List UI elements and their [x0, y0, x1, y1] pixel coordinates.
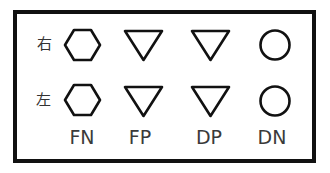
down-triangle-icon [125, 31, 162, 60]
column-label-fp: FP [120, 128, 160, 147]
row-left-symbols [65, 85, 290, 116]
column-label-dn: DN [252, 128, 292, 147]
column-label-dp: DP [189, 128, 229, 147]
row-label-left: 左 [36, 93, 51, 108]
circle-icon [261, 31, 290, 60]
row-label-right: 右 [37, 37, 52, 52]
column-label-fn: FN [62, 128, 102, 147]
down-triangle-icon [125, 87, 162, 116]
down-triangle-icon [192, 31, 229, 60]
hexagon-icon [65, 30, 100, 60]
row-right-symbols [65, 30, 290, 60]
hexagon-icon [65, 85, 100, 115]
down-triangle-icon [192, 87, 229, 116]
circle-icon [261, 87, 290, 116]
